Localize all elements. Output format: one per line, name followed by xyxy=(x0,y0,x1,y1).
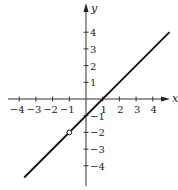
x-tick-label: 3 xyxy=(134,104,140,115)
y-tick-label: −3 xyxy=(90,144,105,155)
x-tick-label: −2 xyxy=(43,104,58,115)
x-tick-label: 4 xyxy=(151,104,157,115)
y-tick-label: 4 xyxy=(90,27,96,38)
x-tick-label: −4 xyxy=(10,104,25,115)
y-axis-label: y xyxy=(90,2,98,15)
y-tick-label: 3 xyxy=(90,44,96,55)
open-point-hole xyxy=(67,130,72,135)
y-tick-label: −2 xyxy=(90,127,105,138)
y-tick-label: −4 xyxy=(90,161,105,172)
x-axis-arrow-icon xyxy=(161,97,170,102)
y-tick-label: 1 xyxy=(90,77,96,88)
y-axis-arrow-icon xyxy=(84,3,89,12)
y-tick-label: 2 xyxy=(90,61,96,72)
x-axis-label: x xyxy=(172,92,178,105)
y-tick-label: −1 xyxy=(90,111,105,122)
x-tick-label: 2 xyxy=(117,104,123,115)
x-tick-label: −3 xyxy=(27,104,42,115)
x-tick-label: −1 xyxy=(60,104,75,115)
graph-canvas: xy −4−3−2−112344321−1−2−3−4 xyxy=(0,0,178,190)
